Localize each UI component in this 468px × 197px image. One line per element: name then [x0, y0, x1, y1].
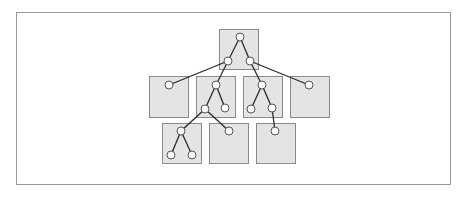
- tree-diagram: [0, 0, 468, 197]
- node-n13: [271, 127, 279, 135]
- node-n10: [268, 104, 276, 112]
- node-n7: [201, 105, 209, 113]
- node-n11: [177, 127, 185, 135]
- node-n5: [258, 81, 266, 89]
- node-n8: [221, 104, 229, 112]
- node-n3: [165, 81, 173, 89]
- node-n4: [212, 81, 220, 89]
- node-n14: [167, 151, 175, 159]
- node-n1: [224, 57, 232, 65]
- node-n0: [236, 33, 244, 41]
- node-n15: [188, 151, 196, 159]
- node-n2: [246, 57, 254, 65]
- node-n9: [247, 105, 255, 113]
- node-n6: [305, 81, 313, 89]
- node-n12: [225, 127, 233, 135]
